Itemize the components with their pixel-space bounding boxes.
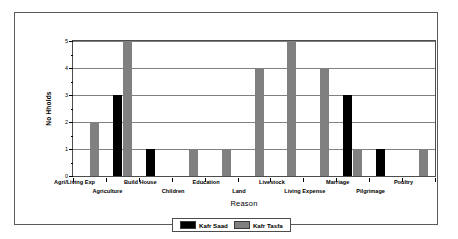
x-category-label: Children [143,189,203,195]
y-tick-label: 5 [60,39,68,45]
bar [113,95,122,176]
x-tick-mark [172,178,173,182]
x-tick-mark [238,178,239,182]
x-category-label: Education [176,180,236,186]
bar [123,41,132,176]
bar [90,122,99,176]
y-tick-label: 1 [60,147,68,153]
bar [320,68,329,176]
x-tick-mark [435,178,436,182]
legend-entry: Kafr Tasfa [234,221,283,229]
y-tick-label: 3 [60,93,68,99]
legend-label: Kafr Tasfa [253,222,283,229]
y-tick-mark [69,149,73,150]
bar [189,149,198,176]
bar [353,149,362,176]
y-tick-minor [71,136,73,137]
y-tick-minor [71,109,73,110]
chart-legend: Kafr SaadKafr Tasfa [172,218,291,232]
y-tick-mark [69,95,73,96]
x-tick-mark [106,178,107,182]
y-tick-minor [71,163,73,164]
y-tick-minor [71,82,73,83]
x-category-label: Land [209,189,269,195]
x-category-label: Pilgrimage [341,189,401,195]
bar [222,149,231,176]
legend-label: Kafr Saad [199,222,228,229]
x-category-label: Livestock [242,180,302,186]
y-tick-mark [69,41,73,42]
y-tick-label: 2 [60,120,68,126]
plot-area: 012345 [72,40,436,177]
y-tick-mark [69,68,73,69]
x-tick-mark [369,178,370,182]
x-tick-mark [303,178,304,182]
x-axis-title: Reason [15,199,458,208]
chart-figure: No Hholds 012345 Agri/Living ExpAgricult… [0,0,458,239]
y-tick-mark [69,176,73,177]
bar [287,41,296,176]
bar [146,149,155,176]
y-tick-mark [69,122,73,123]
bar [343,95,352,176]
y-tick-label: 4 [60,66,68,72]
chart-outer-frame: No Hholds 012345 Agri/Living ExpAgricult… [14,12,438,225]
y-tick-minor [71,55,73,56]
legend-entry: Kafr Saad [180,221,228,229]
x-category-label: Agri/Living Exp [44,180,104,186]
y-axis-title: No Hholds [45,40,55,177]
x-category-label: Build House [110,180,170,186]
bar [419,149,428,176]
x-category-label: Living Expense [275,189,335,195]
legend-swatch [180,221,196,229]
x-category-label: Agriculture [77,189,137,195]
bar [376,149,385,176]
x-category-label: Poultry [374,180,434,186]
legend-swatch [234,221,250,229]
x-category-label: Marriage [308,180,368,186]
bar [255,68,264,176]
